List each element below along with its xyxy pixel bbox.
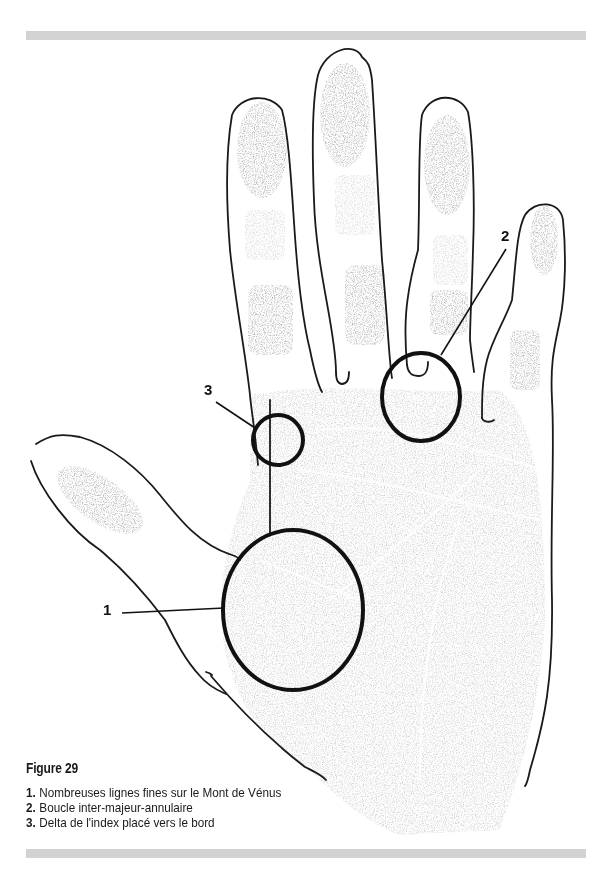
- legend-number: 2.: [26, 800, 36, 815]
- legend-text: Delta de l'index placé vers le bord: [39, 815, 214, 830]
- figure-title: Figure 29: [26, 760, 270, 776]
- figure-caption: Figure 29 1.Nombreuses lignes fines sur …: [26, 760, 310, 830]
- legend-number: 3.: [26, 815, 36, 830]
- legend-text: Boucle inter-majeur-annulaire: [39, 800, 192, 815]
- callout-label-2: 2: [501, 228, 509, 243]
- legend-item: 1.Nombreuses lignes fines sur le Mont de…: [26, 785, 281, 800]
- legend-item: 3.Delta de l'index placé vers le bord: [26, 815, 281, 830]
- leader-line-1: [122, 608, 224, 613]
- legend-item: 2.Boucle inter-majeur-annulaire: [26, 800, 281, 815]
- bottom-divider-bar: [26, 849, 586, 858]
- callout-label-3: 3: [204, 382, 212, 397]
- leader-line-3: [216, 402, 255, 428]
- figure-legend: 1.Nombreuses lignes fines sur le Mont de…: [26, 785, 310, 830]
- palm-print-illustration: [0, 0, 611, 874]
- callout-label-1: 1: [103, 602, 111, 617]
- legend-number: 1.: [26, 785, 36, 800]
- legend-text: Nombreuses lignes fines sur le Mont de V…: [39, 785, 281, 800]
